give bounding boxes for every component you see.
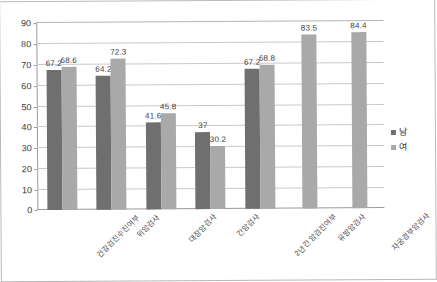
- y-tick-label-50: 50: [21, 102, 31, 112]
- chart-legend: 남여: [391, 128, 435, 158]
- y-tick-label-60: 60: [21, 81, 31, 91]
- legend-label: 여: [399, 143, 407, 152]
- x-axis-label: 유방암검사: [335, 210, 368, 243]
- bar-value-label: 64.2: [95, 65, 111, 74]
- bar-group: 67.268.6: [36, 22, 87, 210]
- bar-group: 3730.2: [185, 21, 236, 209]
- legend-swatch-icon: [391, 130, 396, 135]
- y-tick-label-90: 90: [21, 18, 31, 28]
- bar-value-label: 68.6: [61, 56, 77, 65]
- bar-female: 68.8: [260, 65, 276, 209]
- x-axis-label: 대장암검사: [186, 211, 219, 244]
- bar-female: 45.8: [161, 114, 177, 210]
- bar-group: 41.645.8: [135, 21, 186, 209]
- y-tick-label-10: 10: [22, 185, 32, 195]
- bar-value-label: 30.2: [210, 135, 226, 144]
- bar-male: 67.2: [46, 70, 62, 210]
- bar-value-label: 83.5: [301, 23, 317, 32]
- bar-value-label: 72.3: [110, 48, 126, 57]
- x-axis-label: 자궁경부암검사: [388, 210, 431, 253]
- bar-female: 68.6: [61, 67, 77, 210]
- bar-male: 37: [195, 132, 210, 209]
- bar-value-label: 68.8: [259, 54, 275, 63]
- x-axis-label: 간암검사: [233, 211, 261, 239]
- y-tick-label-80: 80: [21, 39, 31, 49]
- x-axis-label: 건강검진수진여부: [93, 212, 141, 260]
- chart-figure: 0102030405060708090 67.268.664.272.341.6…: [0, 0, 437, 282]
- bar-female: 83.5: [301, 34, 317, 209]
- bar-value-label: 67.2: [244, 57, 260, 66]
- bar-female: 30.2: [211, 146, 226, 209]
- bar-male: 64.2: [96, 76, 112, 210]
- y-tick-label-20: 20: [22, 164, 32, 174]
- bar-value-label: 41.6: [145, 111, 161, 120]
- y-axis: [0, 0, 434, 2]
- legend-item[interactable]: 여: [391, 143, 435, 152]
- y-tick-label-0: 0: [27, 205, 32, 215]
- x-axis-label: 2년간 암검진여부: [291, 210, 338, 258]
- bar-group: 67.268.8: [235, 21, 286, 209]
- y-tick-mark-0: [34, 210, 37, 211]
- legend-label: 남: [399, 128, 407, 137]
- bar-group: 84.4: [334, 20, 385, 208]
- bar-female: 84.4: [351, 32, 367, 208]
- bar-group: 83.5: [284, 20, 335, 208]
- bar-male: 67.2: [245, 68, 261, 208]
- y-tick-label-30: 30: [22, 143, 32, 153]
- bar-value-label: 67.2: [46, 59, 62, 68]
- bar-male: 41.6: [146, 122, 162, 209]
- bar-group: 64.272.3: [86, 22, 137, 210]
- bar-value-label: 37: [198, 121, 207, 130]
- legend-item[interactable]: 남: [391, 128, 435, 137]
- bar-value-label: 45.8: [160, 103, 176, 112]
- bar-value-label: 84.4: [350, 21, 366, 30]
- y-tick-label-70: 70: [21, 60, 31, 70]
- x-axis-labels: 건강검진수진여부위암검사대장암검사간암검사2년간 암검진여부유방암검사자궁경부암…: [37, 210, 384, 282]
- bars-container: 67.268.664.272.341.645.83730.267.268.883…: [36, 20, 384, 210]
- y-tick-label-40: 40: [21, 123, 31, 133]
- plot-area: 0102030405060708090 67.268.664.272.341.6…: [36, 20, 384, 210]
- bar-female: 72.3: [111, 59, 127, 210]
- legend-swatch-icon: [391, 145, 396, 150]
